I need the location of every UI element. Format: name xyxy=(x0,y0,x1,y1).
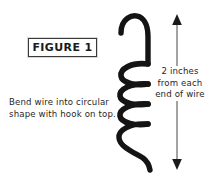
figure-illustration: FIGURE 1 Bend wire into circular shape w… xyxy=(0,0,216,177)
arrow-head-down xyxy=(172,159,182,170)
dimension-line-2: from each xyxy=(152,78,208,90)
dimension-annotation-text: 2 inches from each end of wire xyxy=(152,66,208,101)
dimension-line-1: 2 inches xyxy=(152,66,208,78)
arrow-head-up xyxy=(172,14,182,25)
dimension-line-3: end of wire xyxy=(152,89,208,101)
